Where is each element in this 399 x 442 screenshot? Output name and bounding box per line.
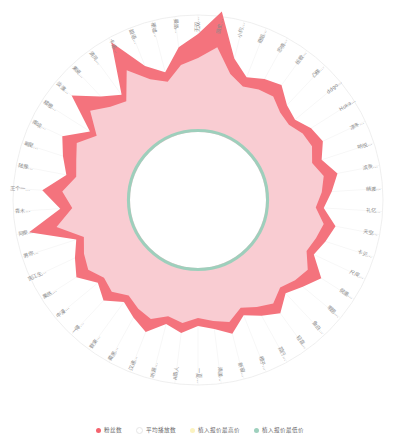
category-label: 青木...	[15, 206, 31, 215]
category-label: 素瓷...	[70, 63, 86, 80]
category-label: 数束...	[87, 333, 102, 350]
category-label: 一夏...	[196, 368, 202, 383]
category-label: 宪江生...	[26, 267, 48, 283]
category-label: Hoka...	[338, 97, 357, 112]
legend-item[interactable]: 平均播放数	[136, 427, 176, 434]
category-label: 萌渡...	[365, 184, 381, 193]
category-label: 绘歌...	[293, 49, 308, 66]
legend-dot-min-price	[254, 428, 259, 433]
category-label: 新窗...	[236, 362, 248, 379]
legend-dot-avg-plays	[136, 427, 143, 434]
legend-label: 植入报价最低价	[262, 428, 304, 434]
category-label: 天空...	[362, 227, 379, 238]
category-label: 奇蹈...	[256, 28, 269, 45]
legend-label: 平均播放数	[146, 428, 176, 434]
category-label: 戴黑...	[106, 345, 120, 362]
category-label: 凸梯...	[310, 63, 326, 80]
legend-item[interactable]: 植入报价最低价	[254, 428, 304, 434]
category-label: 孤行...	[276, 345, 290, 362]
legend-dot-max-price	[190, 428, 195, 433]
category-label: 樱橙...	[42, 98, 59, 113]
category-label: 清风...	[88, 49, 103, 66]
category-label: 鱼白...	[311, 319, 327, 336]
category-label: 曼路...	[172, 18, 182, 34]
legend-dot-fans	[96, 428, 101, 433]
category-label: 暇思...	[325, 304, 341, 319]
category-label: 轻音...	[294, 333, 309, 350]
category-label: 清漾...	[216, 366, 226, 382]
legend-label: 植入报价最高价	[198, 428, 240, 434]
category-label: 橙子...	[257, 355, 270, 372]
category-label: 甜语...	[127, 28, 140, 45]
inner-hole	[130, 132, 266, 268]
category-label: 男你...	[23, 247, 40, 259]
category-label: 中漫...	[54, 303, 71, 319]
category-label: 无双...	[194, 17, 201, 32]
category-label: 忠情...	[275, 37, 289, 54]
category-label: 滨贡...	[362, 161, 379, 172]
category-label: 尺皮...	[349, 267, 366, 281]
category-label: 凉冬...	[348, 118, 365, 132]
category-label: 倪墨...	[338, 286, 355, 301]
legend-label: 粉丝数	[104, 428, 122, 434]
legend-item[interactable]: 植入报价最高价	[190, 428, 240, 434]
category-label: 礼亿...	[365, 206, 381, 215]
category-label: 王个一...	[10, 185, 31, 192]
category-label: 暇星...	[23, 140, 40, 151]
category-label: 一得...	[69, 319, 85, 335]
category-label: 呐悦...	[356, 139, 373, 151]
category-label: 硬嘘...	[149, 22, 161, 39]
category-label: 汉逮...	[126, 354, 139, 371]
chart-legend: 粉丝数 平均播放数 植入报价最高价 植入报价最低价	[0, 427, 399, 434]
category-label: 小约...	[235, 21, 247, 38]
legend-item[interactable]: 粉丝数	[96, 428, 122, 434]
category-label: 南境...	[31, 118, 48, 132]
series-areas	[29, 12, 337, 334]
polar-chart-svg: 无双...固史...小约...奇蹈...忠情...绘歌...凸梯...ddgo.…	[0, 0, 399, 442]
category-label: 陆豫...	[18, 161, 35, 172]
category-label: 阿泰...	[17, 227, 34, 238]
polar-chart-container: 无双...固史...小约...奇蹈...忠情...绘歌...凸梯...ddgo.…	[0, 0, 399, 442]
category-label: ddgo...	[325, 79, 344, 96]
category-label: 卡贝...	[357, 248, 374, 260]
category-label: A路人	[171, 366, 181, 380]
category-label: 听源...	[148, 361, 160, 378]
category-label: 果然...	[41, 286, 58, 301]
